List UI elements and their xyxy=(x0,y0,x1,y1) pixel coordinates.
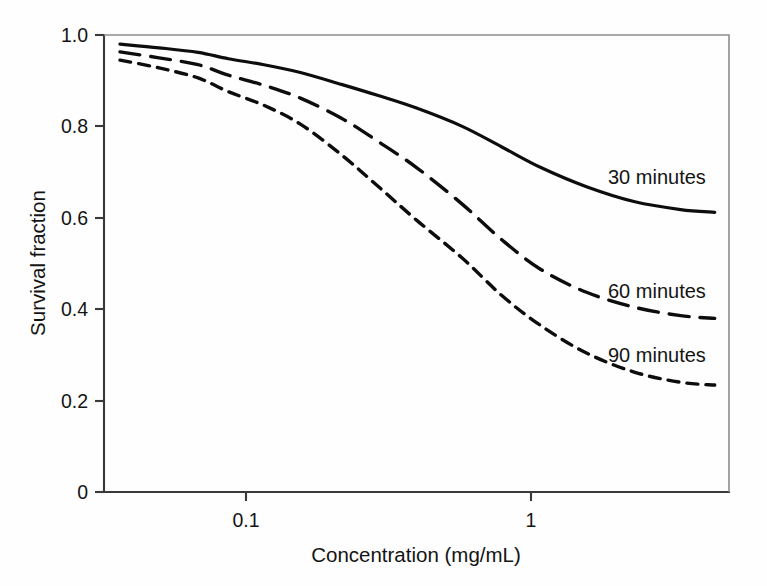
chart-canvas: 1.0 0.8 0.6 0.4 0.2 0 0.1 1 Concentratio… xyxy=(0,0,767,586)
series-group xyxy=(120,44,715,385)
y-tick-label-0.2: 0.2 xyxy=(61,390,88,412)
y-axis-ticks xyxy=(95,35,104,492)
y-tick-labels: 1.0 0.8 0.6 0.4 0.2 0 xyxy=(61,24,88,503)
axis-top-right-border xyxy=(104,35,729,492)
y-tick-label-0: 0 xyxy=(77,481,88,503)
x-tick-labels: 0.1 1 xyxy=(232,509,536,531)
series-label-90-minutes: 90 minutes xyxy=(608,344,706,366)
x-axis-title: Concentration (mg/mL) xyxy=(311,543,521,566)
y-tick-label-0.6: 0.6 xyxy=(61,207,88,229)
axis-frame xyxy=(104,35,729,492)
x-tick-label-1: 1 xyxy=(526,509,537,531)
series-labels: 30 minutes 60 minutes 90 minutes xyxy=(608,166,706,366)
y-tick-label-0.4: 0.4 xyxy=(61,298,88,320)
axis-spines xyxy=(104,35,729,492)
y-axis-title: Survival fraction xyxy=(26,190,49,336)
x-tick-label-0.1: 0.1 xyxy=(232,509,259,531)
y-tick-label-0.8: 0.8 xyxy=(61,115,88,137)
chart-figure: 1.0 0.8 0.6 0.4 0.2 0 0.1 1 Concentratio… xyxy=(0,0,767,586)
x-axis-ticks xyxy=(246,492,531,501)
series-label-30-minutes: 30 minutes xyxy=(608,166,706,188)
series-label-60-minutes: 60 minutes xyxy=(608,280,706,302)
y-tick-label-1.0: 1.0 xyxy=(61,24,88,46)
